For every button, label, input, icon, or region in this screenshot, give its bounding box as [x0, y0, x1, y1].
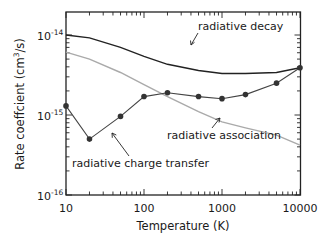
data-point-marker: [63, 103, 69, 109]
annotation-label-radiative-decay: radiative decay: [198, 20, 284, 33]
annotation-label-radiative-charge-transfer: radiative charge transfer: [72, 157, 209, 170]
svg-text:10-14: 10-14: [37, 28, 63, 43]
y-tick-label-1e-16: 10-16: [37, 188, 63, 203]
annotation-radiative-association: radiative association: [167, 118, 281, 142]
y-axis-title: Rate coeffcient (cm3/s): [12, 38, 27, 170]
y-tick-label-1e-14: 10-14: [37, 28, 63, 43]
data-point-marker: [219, 96, 225, 102]
x-tick-label-10000: 10000: [283, 202, 318, 215]
y-tick-label-1e-15: 10-15: [37, 108, 63, 123]
svg-text:10-15: 10-15: [37, 108, 63, 123]
data-point-marker: [297, 65, 303, 71]
x-tick-label-100: 100: [134, 202, 155, 215]
data-point-marker: [87, 136, 93, 142]
series-line: [66, 35, 300, 74]
series-radiative-decay: [66, 35, 300, 74]
data-point-marker: [243, 92, 249, 98]
data-point-marker: [165, 90, 171, 96]
data-point-marker: [274, 80, 280, 86]
rate-coefficient-chart: 10 100 1000 10000 10-14 10-15 10-16 Temp…: [0, 0, 333, 237]
x-tick-label-1000: 1000: [208, 202, 236, 215]
annotation-radiative-decay: radiative decay: [191, 20, 284, 45]
x-axis-title: Temperature (K): [135, 219, 229, 233]
data-point-marker: [141, 94, 147, 100]
x-tick-label-10: 10: [59, 202, 73, 215]
svg-text:10-16: 10-16: [37, 188, 63, 203]
annotation-label-radiative-association: radiative association: [167, 129, 281, 142]
data-point-marker: [196, 94, 202, 100]
data-point-marker: [118, 114, 124, 120]
